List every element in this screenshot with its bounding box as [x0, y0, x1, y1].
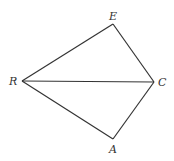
segment-RC — [22, 81, 154, 82]
label-E: E — [108, 10, 117, 23]
label-R: R — [8, 75, 17, 88]
segment-RE — [22, 24, 113, 81]
segment-EC — [113, 24, 154, 82]
label-C: C — [158, 76, 167, 89]
geometry-diagram: E R C A — [0, 0, 174, 161]
label-A: A — [108, 143, 117, 156]
segment-AC — [113, 82, 154, 139]
segment-RA — [22, 81, 113, 139]
